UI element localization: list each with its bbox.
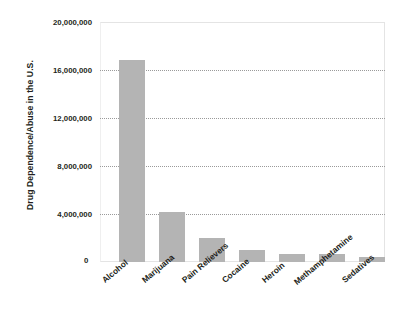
bar-heroin[interactable] (279, 254, 305, 262)
y-tick-label-12m: 12,000,000 (20, 114, 92, 123)
y-tick-label-0: 0 (84, 256, 88, 265)
y-tick-label-16m: 16,000,000 (20, 66, 92, 75)
y-tick-label-4m: 4,000,000 (20, 210, 92, 219)
bar-chart: Drug Dependence/Abuse in the U.S. 20,000… (0, 0, 405, 336)
bar-alcohol[interactable] (119, 60, 145, 262)
y-tick-label-8m: 8,000,000 (20, 162, 92, 171)
y-axis-title: Drug Dependence/Abuse in the U.S. (25, 30, 35, 240)
y-tick-label-20m: 20,000,000 (20, 18, 92, 27)
x-label-heroin: Heroin (260, 260, 287, 285)
bars-layer (100, 22, 385, 262)
